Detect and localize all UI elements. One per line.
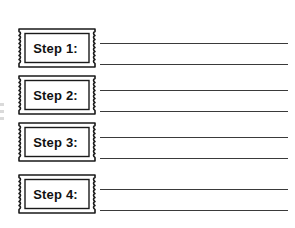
step-row: Step 2:: [0, 73, 295, 119]
ticket-shape-step-4: Step 4:: [14, 172, 100, 216]
ticket-shape-step-3: Step 3:: [14, 120, 100, 164]
writing-line[interactable]: [100, 137, 288, 138]
writing-line[interactable]: [100, 111, 288, 112]
writing-line[interactable]: [100, 158, 288, 159]
writing-lines-step-4: [100, 172, 288, 216]
writing-line[interactable]: [100, 90, 288, 91]
ticket-shape-step-2: Step 2:: [14, 73, 100, 117]
writing-lines-step-1: [100, 26, 288, 70]
step-row: Step 3:: [0, 120, 295, 166]
writing-lines-step-2: [100, 73, 288, 117]
step-row: Step 1:: [0, 26, 295, 72]
writing-line[interactable]: [100, 64, 288, 65]
ticket-shape-step-1: Step 1:: [14, 26, 100, 70]
writing-lines-step-3: [100, 120, 288, 164]
writing-line[interactable]: [100, 43, 288, 44]
writing-line[interactable]: [100, 210, 288, 211]
steps-worksheet: Step 1: Step 2: Step 3:: [0, 0, 295, 228]
writing-line[interactable]: [100, 189, 288, 190]
step-row: Step 4:: [0, 172, 295, 218]
